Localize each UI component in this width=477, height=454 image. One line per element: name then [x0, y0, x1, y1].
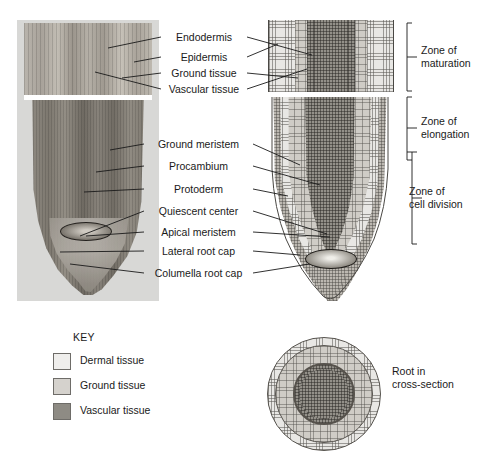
label-ground-tissue: Ground tissue [158, 67, 250, 79]
xsec-stele [299, 369, 349, 419]
key-label-dermal: Dermal tissue [80, 354, 144, 366]
zone-brackets [407, 23, 422, 244]
illus-tip-outline [268, 97, 392, 301]
illus-endodermis-left-band [307, 20, 314, 92]
zone-elongation-line1: Zone of [421, 115, 469, 128]
label-lateral-root-cap: Lateral root cap [146, 245, 251, 257]
zone-label-elongation: Zone of elongation [421, 115, 469, 140]
label-ground-meristem: Ground meristem [146, 138, 251, 150]
illus-cortex-left-band [295, 20, 307, 92]
key-swatch-dermal [53, 353, 71, 370]
cross-section-caption: Root in cross-section [392, 365, 454, 391]
zone-elongation-line2: elongation [421, 128, 469, 141]
cross-section-caption-line2: cross-section [392, 378, 454, 391]
photo-tip-region [24, 100, 152, 295]
photomicrograph-image [24, 23, 152, 295]
key-label-ground: Ground tissue [80, 379, 145, 391]
label-protoderm: Protoderm [148, 183, 249, 195]
illus-epidermis-band [269, 20, 295, 92]
illus-stele-band [314, 20, 348, 92]
label-quiescent-center: Quiescent center [146, 205, 251, 217]
label-procambium: Procambium [148, 160, 249, 172]
illustration-mature-region [268, 20, 394, 92]
photo-mature-region [24, 23, 152, 95]
label-vascular-tissue: Vascular tissue [157, 83, 251, 95]
illus-cortex-right-band [355, 20, 367, 92]
key-swatch-vascular [53, 403, 71, 420]
key-title: KEY [73, 331, 95, 343]
zone-cell-division-line1: Zone of [409, 185, 463, 198]
zone-label-cell-division: Zone of cell division [409, 185, 463, 210]
cross-section-caption-line1: Root in [392, 365, 454, 378]
label-apical-meristem: Apical meristem [146, 226, 251, 238]
illus-quiescent-center [305, 249, 357, 269]
photo-quiescent-center [60, 222, 112, 241]
illus-endodermis-right-band [348, 20, 355, 92]
label-epidermis: Epidermis [164, 51, 244, 63]
illus-epidermis-right-band [367, 20, 393, 92]
root-anatomy-figure: Endodermis Epidermis Ground tissue Vascu… [0, 0, 477, 454]
zone-maturation-line2: maturation [421, 57, 471, 70]
zone-cell-division-line2: cell division [409, 198, 463, 211]
photomicrograph-panel [17, 20, 159, 301]
label-columella-root-cap: Columella root cap [144, 267, 253, 279]
root-illustration [268, 20, 392, 301]
root-cross-section [268, 338, 380, 450]
illustration-tip-region [268, 97, 392, 301]
zone-maturation-line1: Zone of [421, 44, 471, 57]
zone-label-maturation: Zone of maturation [421, 44, 471, 69]
key-swatch-ground [53, 378, 71, 395]
label-endodermis: Endodermis [164, 31, 244, 43]
key-label-vascular: Vascular tissue [80, 404, 150, 416]
